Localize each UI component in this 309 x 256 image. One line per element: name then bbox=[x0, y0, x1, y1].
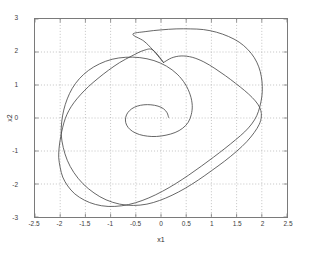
y-tick-label: -1 bbox=[12, 148, 18, 155]
y-tick-label: -2 bbox=[12, 181, 18, 188]
x-tick-label: 2.5 bbox=[283, 221, 292, 228]
figure-canvas: -2.5-2-1.5-1-0.500.511.522.5 -3-2-10123 … bbox=[0, 0, 309, 256]
x-tick-label: -0.5 bbox=[130, 221, 141, 228]
limit-cycle bbox=[59, 29, 263, 207]
y-tick-label: 0 bbox=[14, 115, 18, 122]
y-tick-label: 1 bbox=[14, 81, 18, 88]
x-tick-label: -2 bbox=[57, 221, 63, 228]
trajectory-curves bbox=[35, 19, 287, 217]
x-tick-label: 0 bbox=[159, 221, 163, 228]
x-tick-label: -2.5 bbox=[28, 221, 39, 228]
y-tick-label: -3 bbox=[12, 215, 18, 222]
y-axis-label: x2 bbox=[6, 114, 13, 121]
trajectory-spiral-outward bbox=[61, 56, 261, 206]
plot-area bbox=[34, 18, 288, 218]
x-axis-label: x1 bbox=[157, 236, 164, 243]
x-tick-label: 1 bbox=[210, 221, 214, 228]
x-tick-label: 1.5 bbox=[233, 221, 242, 228]
y-tick-label: 3 bbox=[14, 15, 18, 22]
x-tick-label: -1.5 bbox=[79, 221, 90, 228]
y-tick-label: 2 bbox=[14, 48, 18, 55]
x-tick-label: 2 bbox=[261, 221, 265, 228]
x-tick-label: 0.5 bbox=[182, 221, 191, 228]
x-tick-label: -1 bbox=[107, 221, 113, 228]
